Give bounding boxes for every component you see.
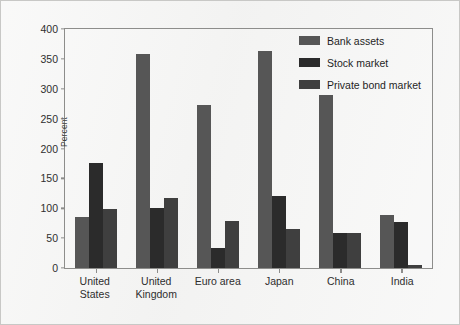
bar <box>380 215 394 268</box>
x-axis-label: India <box>372 275 434 300</box>
bar-group <box>197 29 239 268</box>
x-tick-mark <box>157 268 158 273</box>
bar <box>150 208 164 268</box>
bar <box>272 196 286 268</box>
x-axis-label: UnitedStates <box>64 275 126 300</box>
x-axis-label: UnitedKingdom <box>126 275 188 300</box>
bar <box>89 163 103 268</box>
bar <box>408 265 422 268</box>
bar <box>347 233 361 268</box>
legend-swatch-icon <box>299 58 320 67</box>
bar <box>75 217 89 268</box>
bar <box>286 229 300 268</box>
bar <box>136 54 150 268</box>
x-axis-labels: UnitedStatesUnitedKingdomEuro areaJapanC… <box>64 275 433 300</box>
x-tick-mark <box>96 268 97 273</box>
bar <box>225 221 239 268</box>
legend-item[interactable]: Stock market <box>299 54 421 71</box>
legend-swatch-icon <box>299 80 320 89</box>
x-axis-label-line: Euro area <box>187 275 249 288</box>
legend-swatch-icon <box>299 36 320 45</box>
x-axis-label-line: Kingdom <box>126 288 188 301</box>
legend-item[interactable]: Private bond market <box>299 76 421 93</box>
bar <box>197 105 211 268</box>
bar <box>319 95 333 268</box>
bar <box>394 222 408 268</box>
bar <box>333 233 347 268</box>
bar-group <box>258 29 300 268</box>
bar <box>164 198 178 269</box>
legend-label: Stock market <box>327 57 388 69</box>
bar <box>258 51 272 268</box>
x-tick-mark <box>340 268 341 273</box>
x-axis-label-line: United <box>126 275 188 288</box>
x-axis-label: China <box>310 275 372 300</box>
bar-group <box>75 29 117 268</box>
bar <box>103 209 117 268</box>
bar-group <box>136 29 178 268</box>
x-axis-label: Japan <box>249 275 311 300</box>
x-axis-label-line: United <box>64 275 126 288</box>
x-axis-label-line: India <box>372 275 434 288</box>
x-tick-mark <box>401 268 402 273</box>
legend-label: Private bond market <box>327 79 421 91</box>
legend-item[interactable]: Bank assets <box>299 32 421 49</box>
x-axis-label-line: States <box>64 288 126 301</box>
chart-figure: Percent 050100150200250300350400 UnitedS… <box>0 0 460 325</box>
x-axis-label-line: Japan <box>249 275 311 288</box>
x-axis-label-line: China <box>310 275 372 288</box>
x-tick-mark <box>218 268 219 273</box>
x-axis-label: Euro area <box>187 275 249 300</box>
legend-label: Bank assets <box>327 35 384 47</box>
bar <box>211 248 225 268</box>
x-tick-mark <box>279 268 280 273</box>
chart-legend: Bank assetsStock marketPrivate bond mark… <box>299 32 421 98</box>
